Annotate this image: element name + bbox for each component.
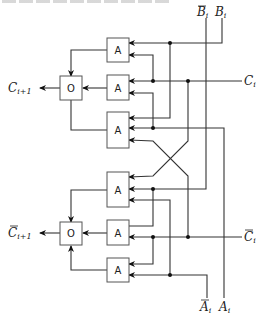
svg-text:A: A xyxy=(115,125,122,136)
svg-text:Ai: Ai xyxy=(199,300,212,315)
label-b-i: Bi xyxy=(214,5,227,20)
svg-text:O: O xyxy=(67,83,75,94)
bottom-and-gate-2: A xyxy=(107,220,129,245)
input-rails xyxy=(129,18,242,298)
label-c-i: Ci xyxy=(244,74,256,89)
svg-text:A: A xyxy=(115,265,122,276)
svg-text:Ci+1: Ci+1 xyxy=(8,226,32,241)
label-a-bar-i: Ai xyxy=(199,300,212,315)
svg-text:Ci+1: Ci+1 xyxy=(8,81,32,96)
label-b-bar-i: Bi xyxy=(196,5,209,20)
svg-text:A: A xyxy=(115,185,122,196)
label-c-i-plus-1: Ci+1 xyxy=(8,81,32,96)
bottom-branch-wires xyxy=(129,189,170,275)
svg-text:Bi: Bi xyxy=(214,5,227,20)
svg-text:A: A xyxy=(115,228,122,239)
bottom-and-gate-3: A xyxy=(107,258,129,282)
label-c-bar-i-plus-1: Ci+1 xyxy=(8,226,32,241)
svg-text:A: A xyxy=(115,45,122,56)
svg-text:Ci: Ci xyxy=(244,230,256,245)
top-and-gate-2: A xyxy=(107,75,129,100)
bottom-or-gate: O xyxy=(60,222,82,245)
label-a-i: Ai xyxy=(218,300,231,315)
svg-text:Ci: Ci xyxy=(244,74,256,89)
svg-text:O: O xyxy=(67,228,75,239)
top-and-gate-1: A xyxy=(107,38,129,62)
svg-text:Bi: Bi xyxy=(196,5,209,20)
svg-text:A: A xyxy=(115,83,122,94)
bottom-and-gate-1: A xyxy=(107,172,129,207)
top-or-gate: O xyxy=(60,76,82,100)
label-c-bar-i: Ci xyxy=(244,230,256,245)
top-branch-wires xyxy=(129,43,188,237)
dual-rail-carry-circuit: A A A O A A A O Bi Bi Ci Ci xyxy=(0,0,266,318)
svg-text:Ai: Ai xyxy=(218,300,231,315)
top-and-gate-3: A xyxy=(107,112,129,148)
